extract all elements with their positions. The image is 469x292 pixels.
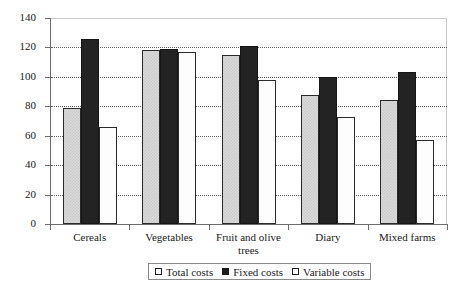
bar-cereals-total-costs xyxy=(63,108,81,224)
x-axis-label-fruit-and-olive-trees: Fruit and olive trees xyxy=(209,231,288,257)
y-axis-label-100: 100 xyxy=(0,71,36,82)
bar-vegetables-total-costs xyxy=(142,50,160,224)
bar-diary-total-costs xyxy=(301,95,319,224)
legend-swatch-icon-fixed-costs xyxy=(222,268,229,275)
legend-item-variable-costs: Variable costs xyxy=(292,266,364,278)
chart-legend: Total costsFixed costsVariable costs xyxy=(148,263,371,280)
legend-label: Fixed costs xyxy=(233,266,283,278)
x-tick-2 xyxy=(209,225,210,230)
bar-vegetables-fixed-costs xyxy=(160,49,178,224)
x-axis-label-cereals: Cereals xyxy=(50,231,129,244)
legend-swatch-icon-total-costs xyxy=(155,268,162,275)
legend-swatch-icon-variable-costs xyxy=(292,268,299,275)
y-axis-label-60: 60 xyxy=(0,130,36,141)
x-tick-4 xyxy=(368,225,369,230)
bar-cereals-fixed-costs xyxy=(81,39,99,224)
bar-mixed-farms-fixed-costs xyxy=(398,72,416,224)
bar-mixed-farms-variable-costs xyxy=(416,140,434,224)
y-axis-label-40: 40 xyxy=(0,159,36,170)
bar-diary-fixed-costs xyxy=(319,77,337,224)
x-tick-0 xyxy=(50,225,51,230)
x-axis-label-mixed-farms: Mixed farms xyxy=(368,231,447,244)
bar-chart: 020406080100120140 CerealsVegetablesFrui… xyxy=(0,0,469,292)
y-axis-label-0: 0 xyxy=(0,218,36,229)
x-tick-5 xyxy=(447,225,448,230)
y-axis-label-80: 80 xyxy=(0,100,36,111)
y-axis-label-120: 120 xyxy=(0,41,36,52)
bar-fruit-and-olive-trees-fixed-costs xyxy=(240,46,258,224)
bar-fruit-and-olive-trees-total-costs xyxy=(222,55,240,224)
x-axis-label-diary: Diary xyxy=(288,231,367,244)
y-axis-label-20: 20 xyxy=(0,189,36,200)
x-tick-1 xyxy=(129,225,130,230)
legend-item-fixed-costs: Fixed costs xyxy=(222,266,283,278)
bar-cereals-variable-costs xyxy=(99,127,117,224)
bars-layer xyxy=(50,18,448,224)
x-axis-line xyxy=(50,224,448,225)
bar-diary-variable-costs xyxy=(337,117,355,224)
x-tick-3 xyxy=(288,225,289,230)
bar-vegetables-variable-costs xyxy=(178,52,196,224)
x-axis-label-vegetables: Vegetables xyxy=(129,231,208,244)
bar-mixed-farms-total-costs xyxy=(380,100,398,224)
legend-label: Variable costs xyxy=(303,266,364,278)
legend-item-total-costs: Total costs xyxy=(155,266,213,278)
legend-label: Total costs xyxy=(166,266,213,278)
bar-fruit-and-olive-trees-variable-costs xyxy=(258,80,276,224)
y-axis-label-140: 140 xyxy=(0,12,36,23)
